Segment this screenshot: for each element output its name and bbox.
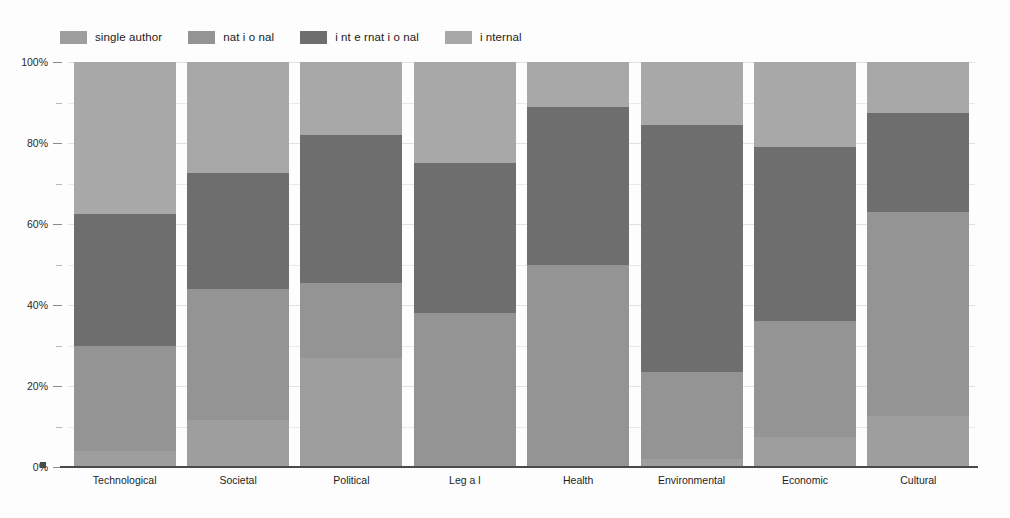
bar-segment[interactable] — [187, 289, 289, 421]
y-tick-mark — [53, 143, 62, 144]
legend-swatch-icon — [60, 31, 87, 44]
bar-group[interactable] — [754, 62, 856, 467]
y-axis-tick-label: 40% — [27, 299, 48, 311]
bar-segment[interactable] — [867, 62, 969, 113]
bar-segment[interactable] — [414, 62, 516, 163]
bar-stack — [414, 62, 516, 467]
y-tick-mark — [53, 224, 62, 225]
legend-swatch-icon — [188, 31, 215, 44]
legend-item[interactable]: i nternal — [445, 31, 522, 44]
y-tick-mark — [53, 305, 62, 306]
bar-group[interactable] — [867, 62, 969, 467]
legend-item-label: i nt e rnat i o nal — [335, 31, 419, 43]
bar-segment[interactable] — [527, 107, 629, 265]
bar-segment[interactable] — [74, 346, 176, 451]
legend-item[interactable]: nat i o nal — [188, 31, 274, 44]
x-axis-tick-label: Leg a l — [449, 474, 481, 486]
bar-segment[interactable] — [74, 214, 176, 346]
legend-item-label: nat i o nal — [223, 31, 274, 43]
bar-segment[interactable] — [754, 147, 856, 321]
bar-group[interactable] — [187, 62, 289, 467]
axis-corner-mark — [40, 462, 46, 468]
bar-segment[interactable] — [74, 62, 176, 214]
bar-stack — [527, 62, 629, 467]
legend-item[interactable]: single author — [60, 31, 162, 44]
bar-segment[interactable] — [300, 62, 402, 135]
bar-segment[interactable] — [867, 416, 969, 467]
bar-group[interactable] — [527, 62, 629, 467]
bar-stack — [641, 62, 743, 467]
bar-stack — [74, 62, 176, 467]
y-axis: 0%20%40%60%80%100% — [0, 62, 62, 467]
bar-segment[interactable] — [754, 321, 856, 436]
bar-segment[interactable] — [754, 62, 856, 147]
plot-area — [68, 62, 975, 467]
bar-segment[interactable] — [867, 212, 969, 417]
bar-segment[interactable] — [414, 313, 516, 467]
x-axis-tick-label: Political — [333, 474, 369, 486]
y-axis-tick-label: 60% — [27, 218, 48, 230]
bar-segment[interactable] — [187, 173, 289, 288]
legend-item-label: single author — [95, 31, 162, 43]
bar-segment[interactable] — [641, 125, 743, 372]
bar-group[interactable] — [641, 62, 743, 467]
y-tick-mark-minor — [56, 265, 62, 266]
bar-segment[interactable] — [187, 62, 289, 173]
bar-stack — [754, 62, 856, 467]
bar-segment[interactable] — [867, 113, 969, 212]
y-axis-tick-label: 80% — [27, 137, 48, 149]
bar-group[interactable] — [74, 62, 176, 467]
x-axis-tick-label: Cultural — [900, 474, 936, 486]
y-tick-mark-minor — [56, 184, 62, 185]
bar-segment[interactable] — [754, 437, 856, 467]
bar-stack — [300, 62, 402, 467]
bar-segment[interactable] — [300, 135, 402, 283]
bar-segment[interactable] — [641, 62, 743, 125]
bar-segment[interactable] — [527, 62, 629, 107]
bar-segment[interactable] — [187, 420, 289, 467]
y-axis-tick-label: 100% — [21, 56, 48, 68]
legend-item-label: i nternal — [480, 31, 522, 43]
y-axis-tick-label: 20% — [27, 380, 48, 392]
bar-stack — [187, 62, 289, 467]
x-axis-tick-label: Health — [563, 474, 593, 486]
x-axis-tick-label: Societal — [219, 474, 256, 486]
y-tick-mark-minor — [56, 346, 62, 347]
x-axis: TechnologicalSocietalPoliticalLeg a lHea… — [68, 474, 975, 494]
bar-segment[interactable] — [300, 358, 402, 467]
x-axis-baseline — [60, 466, 978, 468]
bar-segment[interactable] — [641, 372, 743, 459]
bar-stack — [867, 62, 969, 467]
legend-swatch-icon — [445, 31, 472, 44]
y-tick-mark — [53, 62, 62, 63]
bar-segment[interactable] — [300, 283, 402, 358]
y-tick-mark — [53, 386, 62, 387]
bar-group[interactable] — [300, 62, 402, 467]
chart-legend: single authornat i o nali nt e rnat i o … — [60, 27, 548, 47]
legend-item[interactable]: i nt e rnat i o nal — [300, 31, 419, 44]
x-axis-tick-label: Technological — [93, 474, 157, 486]
bar-segment[interactable] — [74, 451, 176, 467]
bar-group[interactable] — [414, 62, 516, 467]
x-axis-tick-label: Environmental — [658, 474, 725, 486]
stacked-bar-chart: single authornat i o nali nt e rnat i o … — [0, 0, 1010, 518]
y-tick-mark-minor — [56, 103, 62, 104]
bar-segment[interactable] — [414, 163, 516, 313]
y-tick-mark-minor — [56, 427, 62, 428]
x-axis-tick-label: Economic — [782, 474, 828, 486]
bar-segment[interactable] — [527, 265, 629, 468]
legend-swatch-icon — [300, 31, 327, 44]
